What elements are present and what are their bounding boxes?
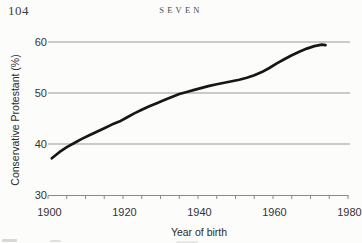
y-tick-label: 30 bbox=[35, 189, 47, 201]
cropped-caption-fragment bbox=[176, 241, 198, 243]
x-tick-label: 1920 bbox=[112, 206, 136, 218]
x-tick-label: 1940 bbox=[187, 206, 211, 218]
y-tick-label: 50 bbox=[35, 87, 47, 99]
x-tick-label: 1960 bbox=[262, 206, 286, 218]
x-axis-title: Year of birth bbox=[48, 226, 350, 238]
chart-svg: 1900192019401960198030405060 bbox=[0, 0, 362, 243]
y-tick-label: 60 bbox=[35, 36, 47, 48]
book-page: 104 SEVEN 1900192019401960198030405060 C… bbox=[0, 0, 362, 243]
y-tick-label: 40 bbox=[35, 138, 47, 150]
cropped-caption-fragment bbox=[50, 240, 61, 242]
x-tick-label: 1980 bbox=[337, 206, 361, 218]
y-axis-title: Conservative Protestant (%) bbox=[9, 40, 23, 200]
cropped-caption-fragment bbox=[2, 239, 17, 242]
x-tick-label: 1900 bbox=[37, 206, 61, 218]
data-curve bbox=[52, 45, 326, 159]
